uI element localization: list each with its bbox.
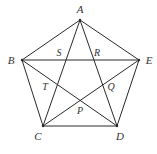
vertex-label-b: B bbox=[8, 54, 15, 66]
intersection-label-r: R bbox=[93, 47, 100, 58]
diagonal-ce bbox=[43, 60, 139, 126]
pentagon-pentagram-diagram: A B C D E S R Q P T bbox=[0, 0, 157, 154]
diagonal-bd bbox=[22, 60, 117, 126]
pentagon-edge-de bbox=[117, 60, 139, 126]
vertex-label-d: D bbox=[115, 130, 124, 142]
diagonal-ac bbox=[43, 20, 80, 126]
vertex-point-c bbox=[42, 125, 44, 127]
vertex-point-b bbox=[21, 59, 23, 61]
vertex-point-d bbox=[116, 125, 118, 127]
intersection-label-p: P bbox=[76, 105, 83, 116]
diagonal-ad bbox=[80, 20, 117, 126]
vertex-point-a bbox=[79, 19, 81, 21]
pentagon-edge-ab bbox=[22, 20, 80, 60]
vertex-label-a: A bbox=[76, 3, 84, 15]
pentagon-edge-ea bbox=[80, 20, 139, 60]
vertex-labels: A B C D E bbox=[8, 3, 153, 142]
pentagon-edge-bc bbox=[22, 60, 43, 126]
vertex-label-e: E bbox=[145, 54, 153, 66]
intersection-label-q: Q bbox=[107, 81, 115, 92]
intersection-label-t: T bbox=[42, 81, 49, 92]
vertex-label-c: C bbox=[34, 130, 42, 142]
intersection-label-s: S bbox=[57, 47, 62, 58]
vertex-point-e bbox=[138, 59, 140, 61]
